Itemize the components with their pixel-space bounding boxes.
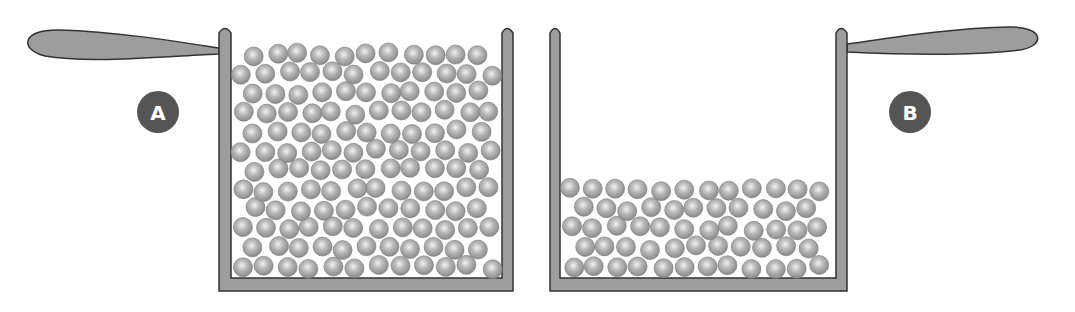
particle bbox=[322, 141, 341, 160]
particle bbox=[400, 82, 419, 101]
particle bbox=[446, 202, 465, 221]
particle bbox=[719, 181, 738, 200]
particle bbox=[458, 219, 477, 238]
particle bbox=[457, 178, 476, 197]
pot-b: B bbox=[550, 27, 1038, 291]
particle bbox=[445, 240, 464, 259]
particle bbox=[435, 100, 454, 119]
particle bbox=[278, 182, 297, 201]
particle bbox=[269, 44, 288, 63]
particle bbox=[312, 124, 331, 143]
particle bbox=[776, 202, 795, 221]
particle bbox=[392, 181, 411, 200]
particle bbox=[413, 219, 432, 238]
particle bbox=[718, 216, 737, 235]
particle bbox=[788, 221, 807, 240]
particle bbox=[459, 143, 478, 162]
particle bbox=[314, 201, 333, 220]
particle bbox=[254, 183, 273, 202]
particle bbox=[403, 125, 422, 144]
particle bbox=[412, 103, 431, 122]
particle bbox=[292, 123, 311, 142]
particle bbox=[472, 122, 491, 141]
particle bbox=[322, 182, 341, 201]
particle bbox=[266, 85, 285, 104]
particle bbox=[576, 237, 595, 256]
particle bbox=[436, 141, 455, 160]
particle bbox=[393, 218, 412, 237]
particle bbox=[767, 220, 786, 239]
particle bbox=[391, 63, 410, 82]
particle bbox=[425, 124, 444, 143]
particle bbox=[289, 85, 308, 104]
particle bbox=[426, 201, 445, 220]
particle bbox=[797, 199, 816, 218]
particle bbox=[742, 179, 761, 198]
particle bbox=[381, 159, 400, 178]
particle bbox=[411, 142, 430, 161]
particle bbox=[447, 83, 466, 102]
badge-a: A bbox=[137, 91, 179, 133]
particle bbox=[234, 258, 253, 277]
particle bbox=[324, 257, 343, 276]
pot-a: A bbox=[28, 29, 513, 292]
particle bbox=[344, 143, 363, 162]
particle bbox=[245, 162, 264, 181]
particle bbox=[425, 159, 444, 178]
particle bbox=[479, 178, 498, 197]
particle bbox=[483, 260, 502, 279]
particle bbox=[392, 101, 411, 120]
particle bbox=[358, 197, 377, 216]
particle bbox=[437, 64, 456, 83]
pot-a-handle bbox=[28, 30, 219, 60]
particle bbox=[753, 238, 772, 257]
particle bbox=[787, 259, 806, 278]
particle bbox=[799, 239, 818, 258]
particle bbox=[584, 257, 603, 276]
particle bbox=[404, 45, 423, 64]
particle bbox=[302, 142, 321, 161]
particle bbox=[357, 123, 376, 142]
particle bbox=[808, 218, 827, 237]
particle bbox=[684, 198, 703, 217]
particle bbox=[766, 179, 785, 198]
particle bbox=[311, 161, 330, 180]
particle bbox=[480, 218, 499, 237]
particle bbox=[313, 83, 332, 102]
particle bbox=[379, 199, 398, 218]
particle bbox=[279, 102, 298, 121]
particle bbox=[336, 82, 355, 101]
particle bbox=[231, 143, 250, 162]
particle bbox=[233, 218, 252, 237]
particle bbox=[447, 120, 466, 139]
particle bbox=[313, 237, 332, 256]
particle bbox=[707, 199, 726, 218]
particle bbox=[369, 101, 388, 120]
badge-a-label: A bbox=[150, 101, 166, 125]
particle bbox=[414, 256, 433, 275]
particle bbox=[414, 182, 433, 201]
particle bbox=[234, 180, 253, 199]
particle bbox=[369, 255, 388, 274]
particle bbox=[281, 62, 300, 81]
particle bbox=[425, 82, 444, 101]
particle bbox=[436, 221, 455, 240]
particle bbox=[617, 237, 636, 256]
particle bbox=[810, 255, 829, 274]
particle bbox=[628, 180, 647, 199]
particle bbox=[333, 160, 352, 179]
particle bbox=[687, 236, 706, 255]
particle bbox=[447, 159, 466, 178]
pot-b-handle bbox=[847, 27, 1038, 54]
particle bbox=[777, 237, 796, 256]
particle bbox=[357, 237, 376, 256]
particle bbox=[481, 141, 500, 160]
particle bbox=[665, 239, 684, 258]
particle bbox=[642, 198, 661, 217]
particle bbox=[560, 178, 579, 197]
particle bbox=[278, 258, 297, 277]
particle bbox=[244, 47, 263, 66]
particle bbox=[379, 43, 398, 62]
particle bbox=[256, 64, 275, 83]
particle bbox=[618, 202, 637, 221]
